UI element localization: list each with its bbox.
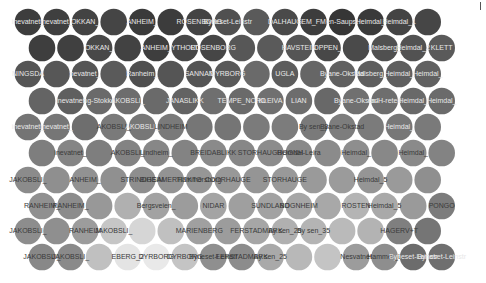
bubble-label: inevatnet_ [40,18,72,26]
bubble-label: HAVSTEIN [282,44,317,51]
bubble-label: Heimdal_ [356,18,386,26]
bubble[interactable] [272,114,299,141]
bubble-label: NINGSDA [12,70,44,77]
bubble[interactable] [158,61,185,88]
bubble-label: DALHAUG [268,18,302,25]
bubble[interactable] [314,244,341,271]
bubble-label: KLEIVA [258,97,282,104]
bubble-label: BOGNHEIM [280,202,318,209]
bubble-label: Lindheim_ [140,149,172,157]
bubble[interactable] [86,140,113,167]
bubble-row: OKKAN_ANHEIM_YTHOLTROSENBORGHAVSTEINOPPE… [29,35,455,62]
bubble[interactable] [43,218,70,245]
bubble-label: KLETT [431,44,454,51]
bubble[interactable] [286,244,313,271]
bubble-row: inevatnet_AKOBSLI_Lindheim_BREIDABLIKKST… [29,140,455,167]
bubble-row: JAKOBSLI_ANHEIM_STRINDHEIMBIGSAMERTITKTO… [9,167,441,194]
bubble-label: JAKOBSLI_ [9,227,46,235]
bubble-row: NINGSDAnevatnet_Ranheim_SANNANDYRBORGUGL… [12,61,443,88]
bubble-label: RANHEIM_ [52,202,88,210]
bubble-label: MARIENBERG [176,227,223,234]
bubble[interactable] [29,35,56,62]
bubble[interactable] [215,114,242,141]
bubble-label: ROSTEN [342,202,371,209]
bubble-label: JAKOBSLI_ [9,176,46,184]
bubble-label: AKOBSLI_ [111,97,145,105]
bubble-label: Byneset-Leinstr [203,18,252,26]
bubble[interactable] [414,218,441,245]
bubble-label: JANASLIKK [166,97,204,104]
bubble-label: ANHEIM_ [70,176,101,184]
bubble[interactable] [329,218,356,245]
bubble-label: Bergsveien_ [137,202,176,210]
bubble-label: Heimdal_5 [368,202,402,210]
bubble[interactable] [57,35,84,62]
bubble-label: OKKAN_ [71,18,100,26]
bubble[interactable] [100,9,127,36]
bubble[interactable] [414,9,441,36]
bubble-label: COORHAUGE [205,176,251,183]
bubble-label: EM_FM [301,18,326,26]
bubble[interactable] [329,167,356,194]
bubble-row: JAKOBSLI_RANHEIMJAKOBSLI_MARIENBERGFERST… [9,218,441,245]
bubble-label: UGLA [275,70,294,77]
bubble[interactable] [86,244,113,271]
bubble-label: nevatnet_ [70,70,101,78]
bubble-label: Heimdal_ [384,123,414,131]
bubble-label: By sen_35 [297,227,330,235]
bubble[interactable] [29,140,56,167]
bubble[interactable] [343,35,370,62]
bubble-label: ANHEIM_ [127,18,158,26]
bubble[interactable] [72,114,99,141]
bubble[interactable] [428,140,455,167]
bubble-label: inevatnet [56,97,84,104]
bubble[interactable] [186,114,213,141]
bubble-label: HAGERV+T [380,227,419,234]
bubble-label: Heimdal_ [341,149,371,157]
bubble-label: BREIDABLIKK [190,149,236,156]
bubble-label: ANHEIM_ [141,44,172,52]
bubble[interactable] [129,218,156,245]
bubble-label: inevatnet_ [54,149,86,157]
bubble-label: PONGO [429,202,456,209]
bubble-label: inevatnet_ [40,123,72,131]
bubble-row: inevatnetng-StokkeAKOBSLI_JANASLIKKTEMPE… [29,88,457,115]
bubble-label: Malsberg_ [354,70,387,78]
bubble-label: OPPEN_ [313,44,342,52]
corner-tick-mark [480,2,481,10]
bubble-label: Byane-Okstad [320,123,364,131]
bubble-label: Heimdal_ [398,97,428,105]
bubble-label: OKKAN_ [85,44,114,52]
bubble-row: inevatnet_inevatnet_AKOBSLI_AKOBSLI_LIND… [12,114,441,141]
bubble[interactable] [43,61,70,88]
bubble-row: JAKOBSLI_JAKOBSLI_EBERG_2DYRBORGDYRBORGB… [23,244,466,271]
bubble-label: Ranheim_ [126,70,158,78]
bubble[interactable] [29,88,56,115]
bubble-label: DYRBORG [210,70,245,77]
bubble[interactable] [243,114,270,141]
bubble[interactable] [243,61,270,88]
bubble-grid-chart: inevatnet_inevatnet_OKKAN_ANHEIM_ROSENBO… [0,0,486,283]
bubble-label: Heimdal_2 [396,44,430,52]
bubble-label: Heimdal-Leira [277,149,321,156]
bubble[interactable] [86,193,113,220]
bubble-label: NIDAR [202,202,224,209]
bubble-label: ROSENBORG [191,44,237,51]
bubble-label: Heimdal_ [413,70,443,78]
bubble[interactable] [371,140,398,167]
bubble[interactable] [414,167,441,194]
bubble[interactable] [314,193,341,220]
bubble-label: STORHAUGE [263,176,308,183]
bubble-label: Heimdal_ [384,70,414,78]
bubble-label: LINDHEIM [154,123,188,130]
bubble[interactable] [414,114,441,141]
bubble-label: Byneset-Leinstr [417,253,466,261]
bubble[interactable] [43,167,70,194]
bubble-label: JAKOBSLI_ [52,253,89,261]
bubble[interactable] [386,167,413,194]
bubble[interactable] [400,193,427,220]
bubble[interactable] [257,35,284,62]
bubble-row: inevatnet_inevatnet_OKKAN_ANHEIM_ROSENBO… [12,9,441,36]
bubble[interactable] [100,61,127,88]
bubble[interactable] [114,35,141,62]
